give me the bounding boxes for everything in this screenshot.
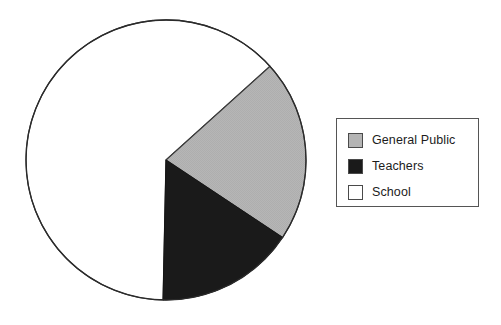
legend-label-school: School: [372, 186, 411, 199]
legend-item-general-public: General Public: [348, 128, 478, 152]
legend-item-teachers: Teachers: [348, 154, 478, 178]
legend-swatch-general-public: [348, 133, 363, 148]
pie-chart-figure: General Public Teachers School: [0, 0, 501, 325]
chart-legend: General Public Teachers School: [336, 118, 479, 207]
legend-label-general-public: General Public: [372, 134, 455, 147]
legend-label-teachers: Teachers: [372, 160, 424, 173]
legend-swatch-teachers: [348, 159, 363, 174]
legend-swatch-school: [348, 185, 363, 200]
legend-item-school: School: [348, 180, 478, 204]
